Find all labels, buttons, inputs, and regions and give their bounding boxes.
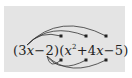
- polynomial-product: (3x−2)(x2+4x−5): [13, 43, 129, 58]
- arrowhead: [105, 59, 108, 62]
- arrowhead: [105, 35, 108, 38]
- distribution-arrows: [0, 0, 132, 78]
- var-x: x: [96, 43, 104, 58]
- var-x: x: [64, 43, 72, 58]
- coef-3: 3: [18, 43, 26, 58]
- arrowhead: [85, 59, 88, 62]
- paren: ): [123, 43, 128, 58]
- term-4: +4: [77, 43, 97, 58]
- arrowhead: [60, 59, 63, 62]
- arrowhead: [60, 35, 63, 38]
- term-neg2: −2: [34, 43, 54, 58]
- arrowhead: [85, 35, 88, 38]
- term-neg5: −5: [104, 43, 124, 58]
- paren: )(: [54, 43, 65, 58]
